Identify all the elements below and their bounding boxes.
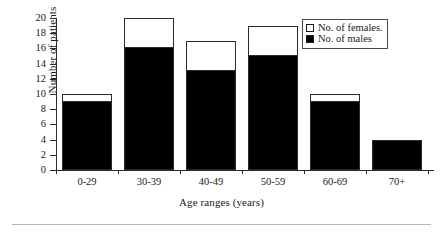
x-tick-label: 60-69	[323, 176, 348, 187]
x-tick-label: 30-39	[137, 176, 162, 187]
y-tick-label: 20	[0, 13, 46, 24]
x-tick-mark	[304, 170, 305, 174]
x-tick-label: 50-59	[261, 176, 286, 187]
page-rule	[12, 224, 431, 225]
y-tick-label: 8	[0, 104, 46, 115]
bar-segment-males	[124, 48, 174, 170]
legend-swatch-males-icon	[306, 35, 314, 43]
bar-stack	[124, 18, 174, 170]
y-tick-label: 10	[0, 89, 46, 100]
chart-legend: No. of females. No. of males	[302, 19, 388, 49]
x-tick-label: 0-29	[77, 176, 96, 187]
bar-segment-males	[310, 102, 360, 170]
legend-swatch-females-icon	[306, 24, 314, 32]
y-tick-label: 18	[0, 28, 46, 39]
x-axis-title: Age ranges (years)	[0, 196, 443, 208]
bar-segment-females	[186, 41, 236, 71]
x-tick-mark	[56, 170, 57, 174]
bar-stack	[186, 18, 236, 170]
bar-segment-females	[248, 26, 298, 56]
x-tick-mark	[180, 170, 181, 174]
x-tick-label: 40-49	[199, 176, 224, 187]
bar-segment-females	[62, 94, 112, 102]
bar-segment-males	[62, 102, 112, 170]
bar-segment-females	[124, 18, 174, 48]
y-tick-label: 12	[0, 74, 46, 85]
bar-stack	[62, 18, 112, 170]
x-tick-mark	[242, 170, 243, 174]
legend-label-males: No. of males	[318, 33, 372, 44]
y-tick-label: 0	[0, 165, 46, 176]
legend-item-females: No. of females.	[306, 22, 383, 33]
legend-item-males: No. of males	[306, 33, 383, 44]
bar-segment-females	[310, 94, 360, 102]
bar-segment-males	[248, 56, 298, 170]
bar-stack	[248, 18, 298, 170]
x-tick-mark	[118, 170, 119, 174]
legend-label-females: No. of females.	[318, 22, 383, 33]
bar-segment-males	[186, 71, 236, 170]
y-tick-label: 6	[0, 119, 46, 130]
x-axis-line	[56, 170, 434, 171]
x-tick-mark	[428, 170, 429, 174]
y-tick-label: 16	[0, 43, 46, 54]
y-tick-label: 4	[0, 134, 46, 145]
chart-figure: Number of patients 02468101214161820 0-2…	[0, 0, 443, 234]
y-tick-label: 14	[0, 58, 46, 69]
bar-segment-males	[372, 140, 422, 170]
y-tick-label: 2	[0, 150, 46, 161]
x-tick-label: 70+	[389, 176, 405, 187]
x-tick-mark	[366, 170, 367, 174]
